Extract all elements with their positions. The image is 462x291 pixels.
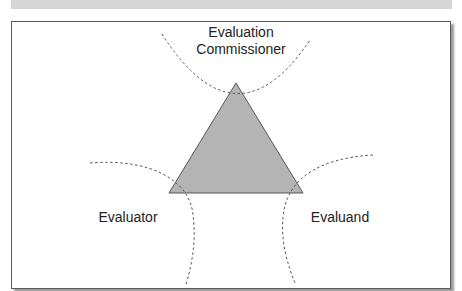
evaluation-commissioner-label: Evaluation Commissioner [186,24,296,58]
commissioner-label-line2: Commissioner [186,41,296,58]
evaluator-label: Evaluator [88,209,168,226]
commissioner-label-line1: Evaluation [186,24,296,41]
central-triangle [169,83,303,193]
evaluand-label: Evaluand [300,209,380,226]
